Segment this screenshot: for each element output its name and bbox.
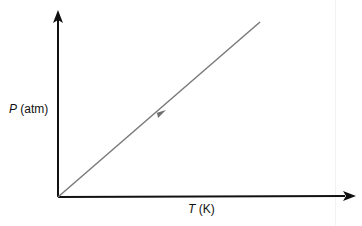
pt-line	[58, 22, 260, 197]
x-axis-label: T (K)	[188, 202, 215, 216]
x-axis	[58, 196, 345, 197]
pt-diagram	[0, 0, 362, 226]
y-axis-label: P (atm)	[9, 102, 48, 116]
y-axis-var: P	[9, 102, 17, 116]
y-axis-unit: (atm)	[17, 102, 48, 116]
x-axis-unit: (K)	[195, 202, 214, 216]
